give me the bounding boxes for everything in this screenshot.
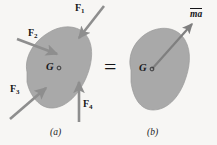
caption-b: (b) bbox=[147, 128, 158, 138]
force-label-f1: F1 bbox=[75, 3, 85, 13]
force-label-f4: F4 bbox=[83, 99, 93, 109]
caption-a: (a) bbox=[50, 128, 61, 138]
force-label-f3: F3 bbox=[10, 84, 20, 94]
resultant-label-ma: ma bbox=[190, 8, 202, 20]
force-label-f2: F2 bbox=[28, 28, 38, 38]
center-of-mass-label-b: G bbox=[139, 63, 147, 74]
figure-container: F1 F2 F3 F4 G = G ma (a) (b) bbox=[0, 0, 217, 145]
equals-sign: = bbox=[104, 56, 116, 78]
center-of-mass-label-a: G bbox=[46, 62, 54, 73]
